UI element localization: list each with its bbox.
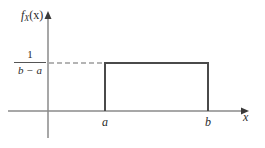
y-label-argument: (x) [29,8,43,22]
y-tick-density-value: 1 b − a [14,49,46,76]
y-axis-label: fX(x) [21,9,43,23]
uniform-density-curve [105,63,208,111]
x-tick-a: a [102,116,108,128]
x-tick-b: b [205,116,211,128]
y-axis-arrow-icon [45,11,52,19]
fraction-bar [14,62,46,63]
y-tick-numerator: 1 [14,49,46,61]
y-tick-denominator: b − a [14,65,46,76]
x-axis-label: x [243,111,248,123]
